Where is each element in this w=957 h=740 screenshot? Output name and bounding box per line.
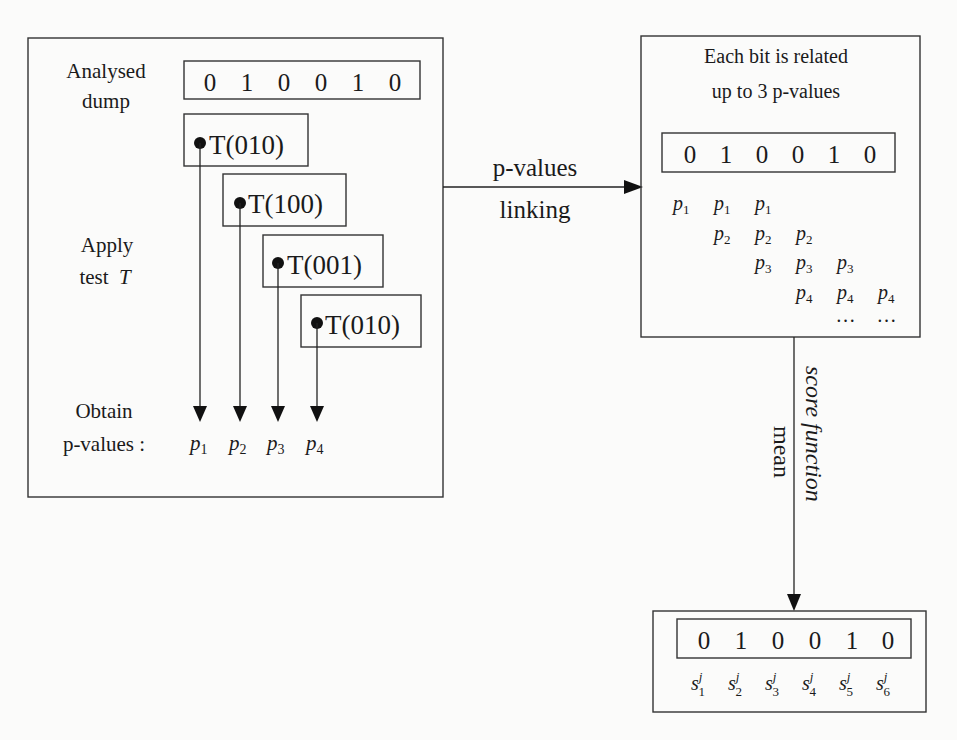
link-arrow: p-values linking [443, 154, 643, 223]
linking-bits: 0 1 0 0 1 0 [684, 141, 877, 168]
score-bits: 0 1 0 0 1 0 [698, 627, 895, 654]
dump-bit: 0 [204, 69, 217, 96]
linked-pvalue: p1 [712, 192, 731, 217]
score-box: 0 1 0 0 1 0 sj1sj2sj3sj4sj5sj6 [653, 611, 926, 712]
score-bit: 0 [698, 627, 711, 654]
linked-pvalue: p2 [753, 222, 772, 247]
linked-pvalue: p4 [876, 281, 895, 306]
dump-bit: 0 [278, 69, 291, 96]
score-label: sj5 [839, 669, 853, 699]
link-label-linking: linking [500, 196, 571, 223]
linked-pvalue: p4 [835, 281, 854, 306]
label-dump: dump [82, 89, 130, 113]
test-label: T(001) [287, 250, 362, 280]
dump-bit: 1 [241, 69, 254, 96]
test-box: T(010) [184, 114, 308, 166]
arrow-down-icon [193, 406, 207, 422]
test-box: T(100) [223, 174, 346, 226]
pvalue-grid: p1p1p1p2p2p2p3p3p3p4p4p4…… [671, 192, 896, 326]
pvalue-label: p4 [304, 431, 324, 457]
test-label: T(010) [325, 310, 400, 340]
score-function-label: score function [801, 366, 827, 502]
arrow-right-icon [624, 180, 643, 194]
label-apply: Apply [81, 233, 134, 257]
score-bit: 0 [772, 627, 785, 654]
linked-pvalue: p2 [712, 222, 731, 247]
linking-title-line2: up to 3 p-values [712, 80, 841, 103]
arrow-down-icon [787, 594, 801, 611]
dump-bits-box [184, 61, 420, 99]
linking-title-line1: Each bit is related [704, 45, 848, 67]
pvalue-label: p1 [188, 431, 208, 457]
arrow-down-icon [310, 406, 324, 422]
linking-bit: 1 [720, 141, 733, 168]
score-label: sj3 [765, 669, 779, 699]
linking-bit: 1 [828, 141, 841, 168]
linking-bit: 0 [756, 141, 769, 168]
score-label: sj4 [802, 669, 816, 699]
linking-box: Each bit is related up to 3 p-values 0 1… [641, 36, 920, 337]
linked-pvalue: p1 [671, 192, 690, 217]
score-bits-box [677, 619, 911, 658]
ellipsis: … [878, 304, 896, 326]
linking-bit: 0 [864, 141, 877, 168]
linking-bit: 0 [684, 141, 697, 168]
arrow-down-icon [271, 406, 285, 422]
ellipsis: … [837, 304, 855, 326]
score-bit: 1 [846, 627, 859, 654]
dump-bit: 0 [389, 69, 402, 96]
mean-label: mean [769, 426, 795, 478]
analysis-box: Analysed dump 0 1 0 0 1 0 T(010) T(100) … [28, 38, 443, 497]
pvalue-label: p3 [265, 431, 285, 457]
linking-bit: 0 [792, 141, 805, 168]
score-bit: 0 [882, 627, 895, 654]
label-obtain: Obtain [75, 399, 133, 423]
score-bit: 0 [809, 627, 822, 654]
test-label: T(010) [209, 130, 284, 160]
score-bit: 1 [735, 627, 748, 654]
score-label: sj2 [728, 669, 742, 699]
label-analysed: Analysed [66, 59, 146, 83]
linked-pvalue: p3 [835, 251, 854, 276]
score-values: sj1sj2sj3sj4sj5sj6 [691, 669, 890, 699]
linked-pvalue: p3 [794, 251, 813, 276]
dump-bit: 1 [352, 69, 365, 96]
score-label: sj6 [876, 669, 890, 699]
dump-bit: 0 [315, 69, 328, 96]
linked-pvalue: p4 [794, 281, 813, 306]
test-box: T(010) [301, 295, 421, 347]
linked-pvalue: p3 [753, 251, 772, 276]
test-label: T(100) [248, 189, 323, 219]
linking-bits-box [662, 133, 895, 172]
label-test: test [79, 265, 108, 289]
linked-pvalue: p2 [794, 222, 813, 247]
label-test-var: T [119, 265, 132, 289]
diagram-canvas: Analysed dump 0 1 0 0 1 0 T(010) T(100) … [0, 0, 957, 740]
link-label-pvalues: p-values [493, 154, 578, 181]
score-arrow: score function mean [769, 337, 827, 611]
test-box: T(001) [263, 235, 383, 287]
dump-bits: 0 1 0 0 1 0 [204, 69, 402, 96]
pvalue-label: p2 [227, 431, 247, 457]
label-pvalues: p-values : [63, 432, 145, 456]
score-label: sj1 [691, 669, 705, 699]
obtained-pvalues: p1 p2 p3 p4 [188, 431, 324, 457]
linked-pvalue: p1 [753, 192, 772, 217]
arrow-down-icon [233, 406, 247, 422]
pvalue-arrows [193, 143, 324, 422]
